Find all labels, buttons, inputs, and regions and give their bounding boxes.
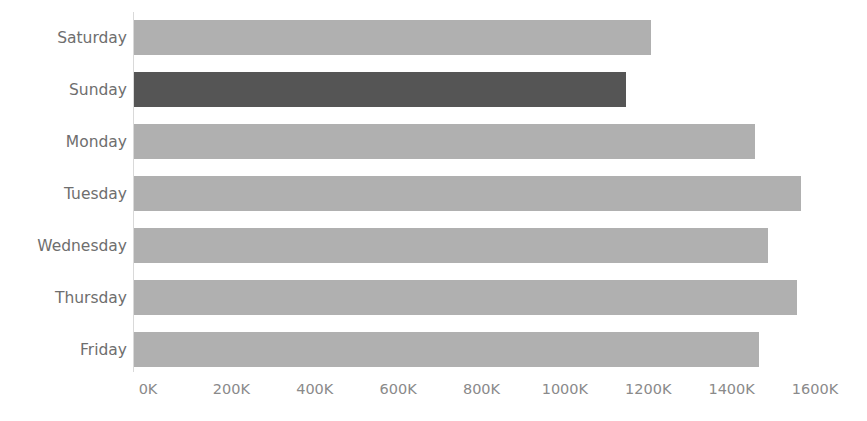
x-axis-tick-400: 400K bbox=[296, 381, 333, 397]
x-axis-tick-0: 0K bbox=[139, 381, 158, 397]
y-axis-label-sunday: Sunday bbox=[0, 64, 127, 116]
bar-row-friday bbox=[134, 324, 814, 376]
x-axis-tick-600: 600K bbox=[380, 381, 417, 397]
bar-row-saturday bbox=[134, 12, 814, 64]
x-axis-tick-1200: 1200K bbox=[625, 381, 671, 397]
bar-friday[interactable] bbox=[134, 332, 759, 367]
plot-area bbox=[134, 12, 814, 372]
y-axis-label-thursday: Thursday bbox=[0, 272, 127, 324]
y-axis-label-tuesday: Tuesday bbox=[0, 168, 127, 220]
x-axis-tick-200: 200K bbox=[213, 381, 250, 397]
bar-row-tuesday bbox=[134, 168, 814, 220]
bar-row-wednesday bbox=[134, 220, 814, 272]
x-axis-tick-800: 800K bbox=[463, 381, 500, 397]
bar-row-sunday bbox=[134, 64, 814, 116]
bar-row-thursday bbox=[134, 272, 814, 324]
bar-thursday[interactable] bbox=[134, 280, 797, 315]
y-axis-labels: Saturday Sunday Monday Tuesday Wednesday… bbox=[0, 12, 127, 372]
bar-tuesday[interactable] bbox=[134, 176, 801, 211]
y-axis-label-monday: Monday bbox=[0, 116, 127, 168]
bar-saturday[interactable] bbox=[134, 20, 651, 55]
bar-wednesday[interactable] bbox=[134, 228, 768, 263]
bar-chart: Saturday Sunday Monday Tuesday Wednesday… bbox=[0, 0, 867, 421]
x-axis-labels: 0K 200K 400K 600K 800K 1000K 1200K 1400K… bbox=[0, 381, 867, 405]
x-axis-tick-1400: 1400K bbox=[708, 381, 754, 397]
bar-monday[interactable] bbox=[134, 124, 755, 159]
y-axis-label-wednesday: Wednesday bbox=[0, 220, 127, 272]
y-axis-label-saturday: Saturday bbox=[0, 12, 127, 64]
bar-row-monday bbox=[134, 116, 814, 168]
x-axis-tick-1600: 1600K bbox=[792, 381, 838, 397]
bar-sunday[interactable] bbox=[134, 72, 626, 107]
x-axis-tick-1000: 1000K bbox=[542, 381, 588, 397]
y-axis-label-friday: Friday bbox=[0, 324, 127, 376]
